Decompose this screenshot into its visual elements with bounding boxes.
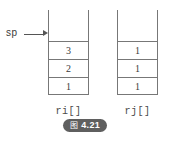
- stack-cell: 3: [48, 41, 89, 59]
- figure-number: 4.21: [81, 121, 100, 130]
- figure-caption-badge: 图 4.21: [63, 119, 107, 132]
- stack-rj-cells: 1 1 1: [117, 41, 158, 95]
- figure-glyph-icon: 图: [70, 122, 78, 130]
- stack-cell: 2: [48, 59, 89, 77]
- stack-rj: 1 1 1 rj[]: [117, 10, 158, 95]
- stack-figure: sp 3 2 1 ri[] 1 1 1 rj[] 图 4.21: [0, 0, 175, 141]
- stack-rj-label: rj[]: [117, 106, 158, 117]
- stack-cell: 1: [117, 59, 158, 77]
- arrow-right-icon-shaft: [24, 34, 44, 35]
- stack-cell: 1: [117, 77, 158, 95]
- stack-ri-label: ri[]: [48, 106, 89, 117]
- stack-pointer-label: sp: [6, 27, 18, 38]
- stack-ri: 3 2 1 ri[]: [48, 10, 89, 95]
- stack-cell: 1: [117, 41, 158, 59]
- stack-cell: 1: [48, 77, 89, 95]
- stack-ri-cells: 3 2 1: [48, 41, 89, 95]
